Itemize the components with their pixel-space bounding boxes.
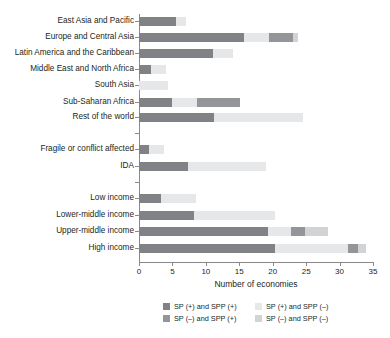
y-axis-tick <box>135 182 139 183</box>
bar-segment <box>139 98 172 107</box>
bar-segment <box>244 33 269 42</box>
x-axis-tick <box>306 262 307 266</box>
bar-segment <box>151 65 166 74</box>
bar-segment <box>194 211 276 220</box>
bar-row <box>139 98 240 107</box>
y-axis-tick <box>135 133 139 134</box>
legend-label: SP (–) and SPP (–) <box>266 314 328 323</box>
legend-item-sp-pos-spp-neg[interactable]: SP (+) and SPP (–) <box>255 302 347 311</box>
bar-row <box>139 17 186 26</box>
legend-item-sp-neg-spp-pos[interactable]: SP (–) and SPP (+) <box>163 314 255 323</box>
x-axis-tick-label: 15 <box>227 267 251 277</box>
bar-segment <box>139 244 275 253</box>
bar-segment <box>197 98 240 107</box>
legend-row-1: SP (+) and SPP (+) SP (+) and SPP (–) <box>163 300 378 312</box>
legend-label: SP (+) and SPP (–) <box>266 302 328 311</box>
bar-segment <box>139 145 149 154</box>
legend-item-sp-neg-spp-neg[interactable]: SP (–) and SPP (–) <box>255 314 347 323</box>
y-axis-label: Lower-middle income <box>0 210 134 219</box>
bar-segment <box>268 227 291 236</box>
y-axis-label: East Asia and Pacific <box>0 16 134 25</box>
y-axis-label: South Asia <box>0 80 134 89</box>
x-axis-tick-label: 20 <box>261 267 285 277</box>
bar-segment <box>348 244 358 253</box>
bar-segment <box>214 113 303 122</box>
bar-segment <box>213 49 233 58</box>
x-axis-tick <box>373 262 374 266</box>
bar-segment <box>139 194 161 203</box>
bar-segment <box>358 244 366 253</box>
legend-swatch-icon <box>255 315 262 322</box>
bar-row <box>139 227 328 236</box>
x-axis-tick-label: 30 <box>328 267 352 277</box>
bar-segment <box>161 194 196 203</box>
y-axis-label: Fragile or conflict affected <box>0 144 134 153</box>
x-axis-tick <box>139 262 140 266</box>
bar-segment <box>176 17 186 26</box>
bar-row <box>139 145 164 154</box>
y-axis-label: IDA <box>0 161 134 170</box>
y-axis-label: Middle East and North Africa <box>0 64 134 73</box>
legend-swatch-icon <box>163 303 170 310</box>
bar-segment <box>275 244 348 253</box>
x-axis-line <box>139 262 373 263</box>
x-axis-tick <box>206 262 207 266</box>
x-axis-tick <box>273 262 274 266</box>
bar-segment <box>305 227 327 236</box>
bar-row <box>139 65 166 74</box>
bar-segment <box>149 145 164 154</box>
bar-row <box>139 162 266 171</box>
y-axis-label: Low income <box>0 193 134 202</box>
bar-segment <box>139 211 194 220</box>
x-axis-tick <box>172 262 173 266</box>
y-axis-label: High income <box>0 243 134 252</box>
bar-segment <box>139 81 168 90</box>
bar-row <box>139 211 275 220</box>
y-axis-label: Europe and Central Asia <box>0 32 134 41</box>
bar-segment <box>139 17 176 26</box>
x-axis-tick-label: 0 <box>127 267 151 277</box>
y-axis-label: Rest of the world <box>0 112 134 121</box>
bar-segment <box>291 227 306 236</box>
legend-label: SP (+) and SPP (+) <box>174 302 237 311</box>
stacked-bar-chart: East Asia and PacificEurope and Central … <box>0 0 390 338</box>
bar-segment <box>269 33 293 42</box>
x-axis-tick-label: 25 <box>294 267 318 277</box>
bar-row <box>139 81 168 90</box>
x-axis-tick-label: 35 <box>361 267 385 277</box>
legend-row-2: SP (–) and SPP (+) SP (–) and SPP (–) <box>163 312 378 324</box>
x-axis-tick <box>239 262 240 266</box>
legend-item-sp-pos-spp-pos[interactable]: SP (+) and SPP (+) <box>163 302 255 311</box>
bar-segment <box>139 33 244 42</box>
bar-segment <box>139 65 151 74</box>
bar-segment <box>139 49 213 58</box>
bar-segment <box>293 33 298 42</box>
bar-row <box>139 194 196 203</box>
y-axis-label: Upper-middle income <box>0 226 134 235</box>
x-axis-title: Number of economies <box>139 279 373 289</box>
x-axis-tick-label: 5 <box>160 267 184 277</box>
x-axis-tick-label: 10 <box>194 267 218 277</box>
bar-row <box>139 33 298 42</box>
bar-segment <box>172 98 197 107</box>
legend-label: SP (–) and SPP (+) <box>174 314 236 323</box>
y-axis-label: Sub-Saharan Africa <box>0 97 134 106</box>
y-axis-label: Latin America and the Caribbean <box>0 48 134 57</box>
legend-swatch-icon <box>163 315 170 322</box>
legend-swatch-icon <box>255 303 262 310</box>
chart-legend: SP (+) and SPP (+) SP (+) and SPP (–) SP… <box>163 300 378 324</box>
bar-segment <box>139 113 214 122</box>
bar-row <box>139 244 366 253</box>
bar-segment <box>139 162 188 171</box>
bar-row <box>139 113 303 122</box>
bar-row <box>139 49 233 58</box>
x-axis-tick <box>340 262 341 266</box>
bar-segment <box>139 227 268 236</box>
bar-segment <box>188 162 266 171</box>
